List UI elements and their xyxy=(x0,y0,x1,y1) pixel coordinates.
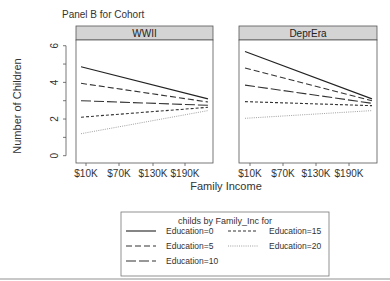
y-axis-label: Number of Children xyxy=(11,58,23,153)
legend-label: Education=20 xyxy=(269,241,321,251)
x-axis-label: Family Income xyxy=(190,180,262,192)
chart-canvas: Panel B for Cohort Number of Children Fa… xyxy=(0,0,390,281)
panel-strip-label: WWII xyxy=(132,28,156,39)
x-tick-label: $130K xyxy=(302,168,331,179)
x-tick-label: $130K xyxy=(139,168,168,179)
chart-title: Panel B for Cohort xyxy=(62,9,144,20)
legend-label: Education=0 xyxy=(166,226,214,236)
x-tick-label: $70K xyxy=(271,168,295,179)
y-tick-label: 6 xyxy=(49,43,60,49)
y-tick-label: 2 xyxy=(49,116,60,122)
legend-label: Education=15 xyxy=(269,226,321,236)
x-tick-label: $10K xyxy=(74,168,98,179)
panels: WWII$10K$70K$130K$190KDeprEra$10K$70K$13… xyxy=(74,26,377,179)
legend: childs by Family_Inc for Education=0Educ… xyxy=(121,212,329,276)
panel-wwii: WWII$10K$70K$130K$190K xyxy=(74,26,213,179)
y-tick-label: 4 xyxy=(49,79,60,85)
x-tick-label: $10K xyxy=(238,168,262,179)
x-tick-label: $190K xyxy=(171,168,200,179)
y-axis: 0246 xyxy=(49,43,66,159)
legend-label: Education=5 xyxy=(166,241,214,251)
legend-title: childs by Family_Inc for xyxy=(178,216,272,226)
legend-label: Education=10 xyxy=(166,256,218,266)
panel-deprera: DeprEra$10K$70K$130K$190K xyxy=(238,26,377,179)
y-tick-label: 0 xyxy=(49,152,60,158)
x-tick-label: $70K xyxy=(107,168,131,179)
panel-strip-label: DeprEra xyxy=(289,28,327,39)
x-tick-label: $190K xyxy=(335,168,364,179)
bottom-divider xyxy=(0,278,390,280)
